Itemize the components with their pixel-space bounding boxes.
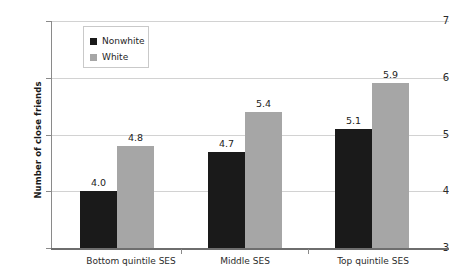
x-axis-label-middle: Middle SES [180,255,310,267]
legend-swatch-nonwhite [90,38,97,45]
bar-nonwhite-group-0 [80,191,117,248]
bar-white-group-0 [117,146,154,248]
y-tick-label: 4 [411,186,449,196]
y-axis-title: Number of close friends [30,0,46,280]
bar-value-label-white-group-1: 5.4 [237,99,290,109]
legend-swatch-white [90,54,97,61]
bar-chart: Number of close friends 34567 4.04.84.75… [0,0,449,280]
legend-item-white: White [90,51,128,63]
category-separator-tick [181,249,182,254]
legend-item-nonwhite: Nonwhite [90,35,145,47]
bar-white-group-1 [245,112,282,248]
category-separator-tick [308,249,309,254]
legend-label-white: White [102,52,128,62]
gridline [51,21,449,22]
y-axis-line [51,21,52,249]
legend: Nonwhite White [83,26,149,68]
bar-white-group-2 [372,83,409,248]
x-axis-line [51,248,449,250]
y-tick-label: 5 [411,130,449,140]
bar-nonwhite-group-2 [335,129,372,248]
x-axis-label-top-quintile: Top quintile SES [308,255,438,267]
bar-value-label-white-group-2: 5.9 [364,70,417,80]
y-tick-label: 7 [411,16,449,26]
bar-value-label-white-group-0: 4.8 [109,133,162,143]
x-axis-label-bottom-quintile: Bottom quintile SES [66,255,196,267]
bar-nonwhite-group-1 [208,152,245,248]
legend-label-nonwhite: Nonwhite [102,36,145,46]
